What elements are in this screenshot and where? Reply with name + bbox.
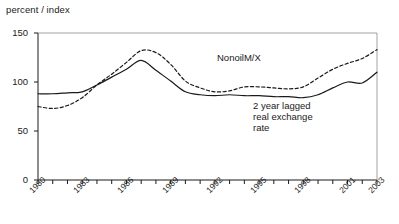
annotation-rer-line1: 2 year lagged [253,100,311,112]
y-axis-tick-label: 150 [2,27,28,38]
annotation-nonoil: NonoilM/X [217,52,261,64]
series-line [38,60,377,97]
y-axis-tick-label: 0 [2,174,28,185]
series-line [38,50,377,109]
y-axis-tick-label: 50 [2,125,28,136]
plot-frame [38,33,377,180]
annotation-rer-line2: real exchange [253,111,313,123]
axis-spines [38,33,377,180]
annotation-rer-line3: rate [253,122,269,134]
y-axis-tick-label: 100 [2,76,28,87]
chart-figure: percent / index 050100150 19801983198619… [0,0,399,224]
